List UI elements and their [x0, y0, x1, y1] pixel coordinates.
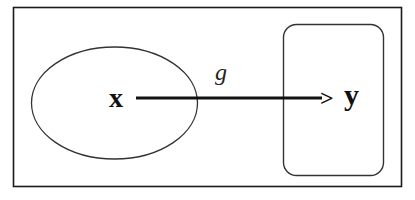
domain-label: x	[109, 82, 123, 113]
mapping-label: g	[215, 59, 227, 85]
mapping-diagram: x g > y	[0, 0, 415, 200]
codomain-label: y	[344, 78, 359, 111]
arrowhead-icon: >	[320, 85, 334, 111]
